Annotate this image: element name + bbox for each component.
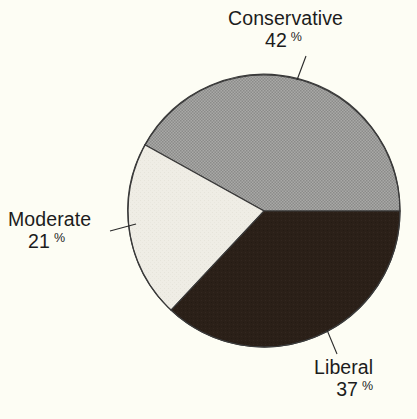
pie-label-conservative-value: 42 — [265, 29, 287, 51]
pie-label-moderate: Moderate 21% — [8, 209, 91, 252]
percent-sign-icon: % — [54, 231, 65, 245]
pie-label-liberal: Liberal 37% — [314, 357, 373, 400]
pie-label-liberal-value: 37 — [336, 378, 358, 400]
pie-label-moderate-value: 21 — [28, 230, 50, 252]
pie-chart-figure: Conservative 42% Moderate 21% Liberal 37… — [0, 0, 417, 419]
pie-label-conservative: Conservative 42% — [228, 8, 343, 51]
pie-label-conservative-name: Conservative — [228, 8, 343, 29]
pie-label-liberal-value-row: 37% — [314, 379, 373, 400]
pie-label-liberal-name: Liberal — [314, 357, 373, 378]
pie-label-conservative-value-row: 42% — [228, 30, 343, 51]
pie-label-moderate-name: Moderate — [8, 209, 91, 230]
leader-line-conservative — [297, 56, 306, 80]
pie-label-moderate-value-row: 21% — [8, 231, 91, 252]
leader-line-liberal — [327, 330, 337, 354]
percent-sign-icon: % — [291, 30, 302, 44]
percent-sign-icon: % — [362, 379, 373, 393]
